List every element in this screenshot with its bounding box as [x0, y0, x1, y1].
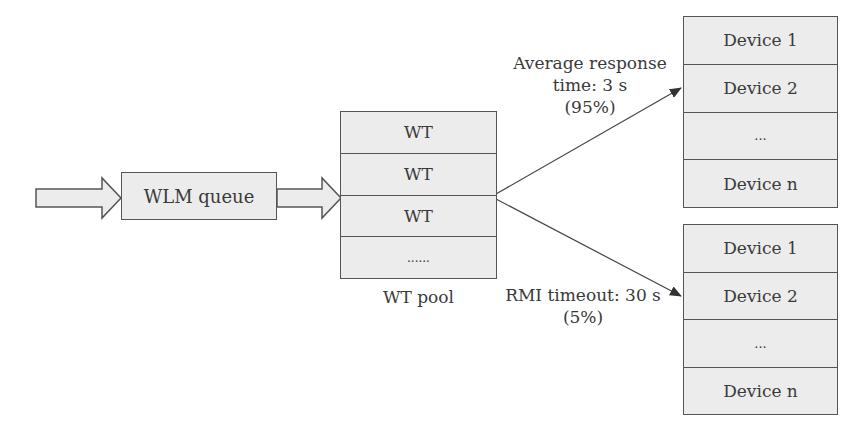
top-edge-label-line3: (95%): [500, 96, 680, 118]
device-row: Device n: [684, 368, 837, 415]
device-row: Device 2: [684, 273, 837, 321]
top-edge-label: Average response time: 3 s (95%): [500, 52, 680, 118]
bottom-edge-label-line2: (5%): [493, 306, 673, 328]
wlm-queue-box: WLM queue: [121, 172, 277, 220]
wt-pool-row: ......: [341, 237, 496, 278]
device-row: Device 1: [684, 225, 837, 273]
top-edge-label-line2: time: 3 s: [500, 74, 680, 96]
device-row: ...: [684, 113, 837, 161]
bottom-edge-label: RMI timeout: 30 s (5%): [493, 284, 673, 328]
wt-pool-row: WT: [341, 112, 496, 154]
wt-pool-caption: WT pool: [340, 286, 497, 308]
wlm-queue-label: WLM queue: [144, 186, 255, 207]
device-group-top: Device 1 Device 2 ... Device n: [683, 16, 838, 208]
device-row: ...: [684, 320, 837, 368]
input-arrow: [36, 178, 121, 218]
wt-pool: WT WT WT ......: [340, 111, 497, 279]
device-group-bottom: Device 1 Device 2 ... Device n: [683, 224, 838, 415]
wt-pool-row: WT: [341, 196, 496, 238]
device-row: Device 2: [684, 65, 837, 113]
device-row: Device n: [684, 160, 837, 207]
wt-pool-row: WT: [341, 154, 496, 196]
top-edge-label-line1: Average response: [500, 52, 680, 74]
queue-to-pool-arrow: [277, 178, 341, 218]
device-row: Device 1: [684, 17, 837, 65]
edge-to-bottom-devices: [496, 199, 681, 296]
bottom-edge-label-line1: RMI timeout: 30 s: [493, 284, 673, 306]
